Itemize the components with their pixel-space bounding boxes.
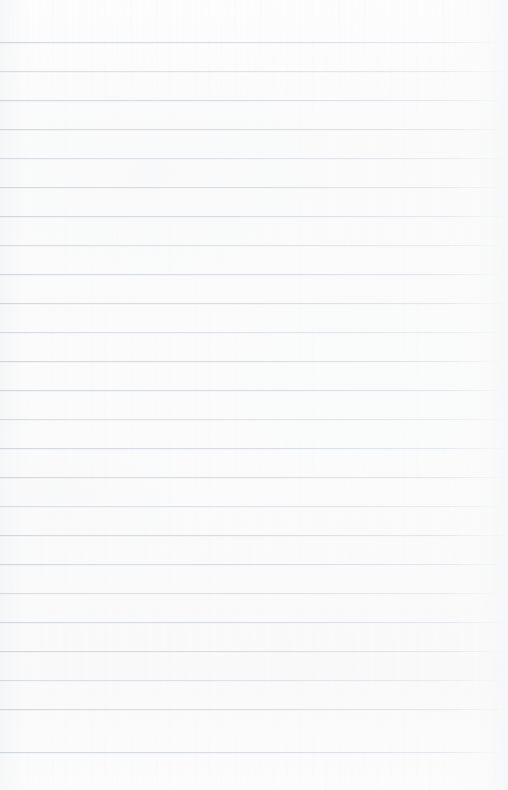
- ruled-line: [0, 129, 508, 130]
- ruled-line: [0, 593, 504, 594]
- ruled-line: [0, 448, 508, 449]
- ruled-line: [0, 390, 508, 391]
- ruled-line: [0, 158, 508, 159]
- ruled-line: [0, 245, 508, 246]
- ruled-line: [0, 622, 508, 623]
- ruled-lines-group: [0, 0, 508, 790]
- ruled-line: [0, 42, 503, 43]
- ruled-line: [0, 709, 508, 710]
- ruled-line: [0, 274, 504, 275]
- ruled-line: [0, 477, 508, 478]
- ruled-line: [0, 680, 503, 681]
- ruled-line: [0, 187, 505, 188]
- ruled-line: [0, 535, 508, 536]
- ruled-line: [0, 361, 503, 362]
- ruled-line: [0, 71, 508, 72]
- lined-paper-page: [0, 0, 508, 790]
- ruled-line: [0, 651, 507, 652]
- ruled-line: [0, 100, 506, 101]
- ruled-line: [0, 419, 506, 420]
- ruled-line: [0, 303, 508, 304]
- ruled-line: [0, 752, 506, 753]
- ruled-line: [0, 564, 508, 565]
- ruled-line: [0, 332, 507, 333]
- ruled-line: [0, 506, 505, 507]
- ruled-line: [0, 216, 508, 217]
